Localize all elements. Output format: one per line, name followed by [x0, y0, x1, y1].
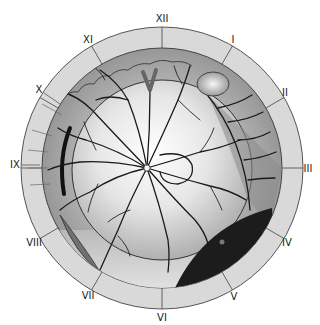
clock-label-VI: VI: [157, 312, 167, 323]
clock-label-II: II: [282, 87, 288, 98]
clock-label-XI: XI: [83, 34, 93, 45]
fundus-svg: XII I II III IV V VI VII VIII IX X XI: [0, 0, 320, 325]
elevated-lesion: [197, 72, 229, 96]
lesion-spot: [220, 240, 225, 245]
clock-label-IX: IX: [10, 159, 20, 170]
optic-disc: [144, 165, 150, 171]
clock-label-I: I: [232, 34, 235, 45]
clock-label-V: V: [231, 291, 238, 302]
clock-label-VII: VII: [82, 290, 95, 301]
fundus-diagram: XII I II III IV V VI VII VIII IX X XI: [0, 0, 320, 325]
clock-label-III: III: [304, 163, 313, 174]
clock-label-XII: XII: [156, 13, 169, 24]
clock-label-VIII: VIII: [26, 237, 42, 248]
clock-label-X: X: [36, 84, 43, 95]
clock-label-IV: IV: [282, 237, 292, 248]
